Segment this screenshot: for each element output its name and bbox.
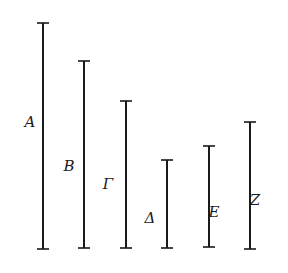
segment-3: Δ (144, 160, 173, 248)
segment-label: E (208, 203, 220, 221)
segment-label: Z (249, 191, 261, 209)
segment-2: Γ (102, 101, 132, 248)
segment-5: Z (244, 122, 261, 249)
segments-group: ABΓΔEZ (23, 23, 261, 249)
segment-label: B (62, 157, 74, 175)
segment-label: Γ (102, 175, 114, 193)
segment-label: Δ (144, 209, 156, 227)
segment-0: A (23, 23, 49, 249)
segment-1: B (62, 61, 90, 248)
line-segments-diagram: ABΓΔEZ (0, 0, 288, 273)
segment-4: E (203, 146, 220, 247)
segment-label: A (23, 113, 36, 131)
